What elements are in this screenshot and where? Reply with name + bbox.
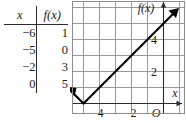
y-tick-label-4: 4	[151, 33, 157, 47]
cell-x: −2	[4, 59, 36, 76]
table-row: −6 1	[4, 25, 68, 42]
coordinate-graph: −4 −2 O 4 2 f(x) x	[70, 0, 186, 123]
table-row: 0 5	[4, 76, 68, 93]
y-tick-label-2: 2	[151, 65, 157, 79]
cell-fx: 1	[36, 25, 68, 42]
x-axis-title: x	[171, 86, 178, 100]
y-axis-title: f(x)	[138, 1, 155, 15]
table-body: x f(x) −6 1 −5 0 −2 3 0 5	[4, 6, 68, 93]
table-row: −5 0	[4, 42, 68, 59]
cell-fx: 5	[36, 76, 68, 93]
table-header-x: x	[4, 6, 36, 25]
cell-x: 0	[4, 76, 36, 93]
table-header-row: x f(x)	[4, 6, 68, 25]
figure-container: x f(x) −6 1 −5 0 −2 3 0 5	[0, 0, 186, 123]
y-axis-arrow-icon	[161, 2, 166, 8]
table-header-fx: f(x)	[36, 6, 68, 25]
cell-x: −5	[4, 42, 36, 59]
cell-x: −6	[4, 25, 36, 42]
table-row: −2 3	[4, 59, 68, 76]
cell-fx: 3	[36, 59, 68, 76]
cell-fx: 0	[36, 42, 68, 59]
value-table: x f(x) −6 1 −5 0 −2 3 0 5	[0, 6, 70, 116]
